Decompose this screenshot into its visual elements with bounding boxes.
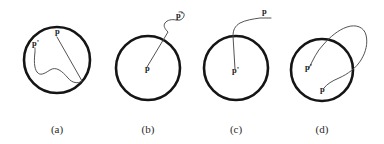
panel-c: p' p (c) [204, 6, 271, 136]
label-p: p [145, 63, 150, 73]
curve-path-a [34, 37, 82, 83]
panel-a: p p' (a) [24, 26, 90, 136]
label-p-prime: p' [232, 65, 239, 75]
panel-b: p p' (b) [116, 10, 184, 136]
topology-figure: p p' (a) p p' (b) p' p (c) p' p (d) [0, 0, 384, 144]
panel-d: p' p (d) [291, 26, 367, 136]
label-p-prime: p' [32, 38, 39, 48]
label-p-prime: p' [176, 10, 183, 20]
caption-a: (a) [51, 123, 64, 136]
figure-container: p p' (a) p p' (b) p' p (c) p' p (d) [0, 0, 384, 144]
label-p: p [262, 6, 267, 16]
label-p: p [320, 84, 325, 94]
caption-b: (b) [142, 123, 155, 136]
caption-c: (c) [230, 123, 243, 136]
curve-path-c [233, 18, 271, 69]
curve-path-d [309, 26, 367, 88]
label-p-prime: p' [305, 62, 312, 72]
caption-d: (d) [316, 123, 329, 136]
label-p: p [55, 26, 60, 36]
